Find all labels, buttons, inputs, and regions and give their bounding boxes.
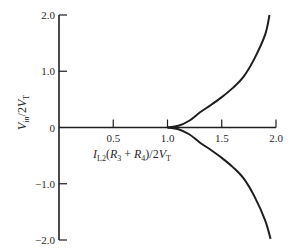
series-upper-branch <box>168 15 270 128</box>
y-tick-label: 1.0 <box>41 65 55 77</box>
x-axis-label: IL2(R3 + R4)/2VT <box>92 147 171 163</box>
x-tick-label: 1.0 <box>161 132 175 144</box>
series-lower-branch <box>168 128 271 239</box>
x-tick-label: 0.5 <box>106 132 120 144</box>
y-tick-label: 2.0 <box>41 9 55 21</box>
x-tick-label: 2.0 <box>269 132 283 144</box>
x-ticks: 0.51.01.52.0 <box>106 120 283 144</box>
y-tick-label: 0 <box>50 122 56 134</box>
chart: 0.51.01.52.0 2.01.00−1.0−2.0 IL2(R3 + R4… <box>0 0 299 251</box>
y-tick-label: −1.0 <box>35 178 55 190</box>
y-axis-label: Vin/2VT <box>15 95 31 130</box>
y-tick-label: −2.0 <box>35 234 55 246</box>
x-tick-label: 1.5 <box>215 132 229 144</box>
